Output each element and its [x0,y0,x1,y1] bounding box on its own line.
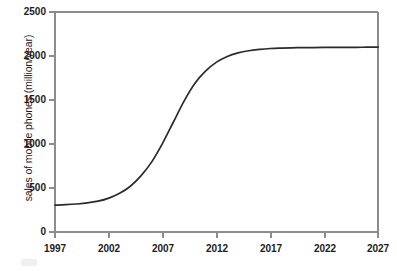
page-scan-artifact [21,259,37,266]
y-tick-marks [49,12,55,232]
plot-area [0,0,397,271]
data-series-line [55,47,378,205]
x-tick-marks [55,232,378,238]
chart-figure: sales of mobile phones (million/year) 25… [0,0,397,271]
